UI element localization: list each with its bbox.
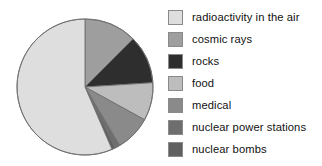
legend-item-nuclear-bombs[interactable]: nuclear bombs <box>168 138 320 160</box>
legend-item-rocks[interactable]: rocks <box>168 50 320 72</box>
chart-legend: radioactivity in the air cosmic rays roc… <box>168 6 320 162</box>
legend-label-radioactivity-in-the-air: radioactivity in the air <box>192 11 300 24</box>
legend-swatch-radioactivity-in-the-air <box>168 10 183 25</box>
pie-chart-area <box>0 0 165 166</box>
legend-swatch-nuclear-power-stations <box>168 120 183 135</box>
legend-item-cosmic-rays[interactable]: cosmic rays <box>168 28 320 50</box>
legend-label-nuclear-power-stations: nuclear power stations <box>192 121 306 134</box>
legend-item-food[interactable]: food <box>168 72 320 94</box>
legend-label-medical: medical <box>192 99 231 112</box>
legend-item-medical[interactable]: medical <box>168 94 320 116</box>
legend-swatch-food <box>168 76 183 91</box>
pie-svg <box>0 0 165 166</box>
legend-swatch-rocks <box>168 54 183 69</box>
legend-label-nuclear-bombs: nuclear bombs <box>192 143 267 156</box>
legend-swatch-cosmic-rays <box>168 32 183 47</box>
legend-swatch-medical <box>168 98 183 113</box>
legend-label-cosmic-rays: cosmic rays <box>192 33 252 46</box>
legend-label-rocks: rocks <box>192 55 219 68</box>
legend-swatch-nuclear-bombs <box>168 142 183 157</box>
legend-item-nuclear-power-stations[interactable]: nuclear power stations <box>168 116 320 138</box>
pie-chart-figure: radioactivity in the air cosmic rays roc… <box>0 0 322 166</box>
legend-item-radioactivity-in-the-air[interactable]: radioactivity in the air <box>168 6 320 28</box>
legend-label-food: food <box>192 77 214 90</box>
